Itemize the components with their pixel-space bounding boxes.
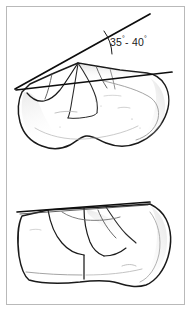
angle-min-value: 35: [110, 36, 122, 48]
upper-bone-stipple-2: [101, 106, 102, 107]
angle-measurement-label: 35°- 40°: [110, 35, 147, 47]
angle-max-value: 40: [132, 36, 144, 48]
figure-root: 35°- 40°: [0, 0, 191, 312]
upper-bone-stipple-1: [95, 100, 96, 101]
lower-bone-view: [17, 202, 170, 286]
upper-bone-stipple-4: [140, 128, 141, 129]
upper-bone-view: [15, 14, 172, 149]
upper-bone-stipple-5: [60, 127, 61, 128]
degree-symbol-max: °: [144, 35, 147, 42]
upper-bone-stipple-3: [131, 118, 132, 119]
anatomical-illustration-canvas: [0, 0, 191, 312]
angle-range-separator: -: [125, 36, 132, 48]
